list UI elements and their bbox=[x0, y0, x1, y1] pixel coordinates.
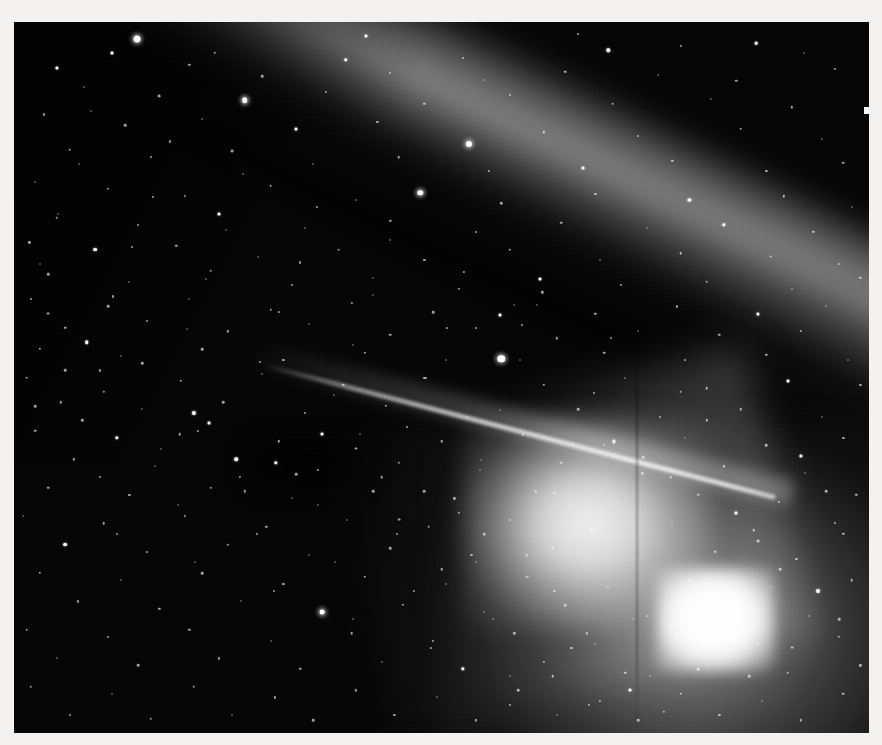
star bbox=[344, 58, 348, 62]
star bbox=[240, 600, 242, 602]
star bbox=[34, 405, 37, 408]
star bbox=[657, 74, 659, 76]
star bbox=[150, 718, 152, 720]
star bbox=[26, 629, 29, 632]
star bbox=[363, 351, 365, 353]
star bbox=[282, 359, 284, 361]
star bbox=[201, 118, 203, 120]
star bbox=[779, 568, 782, 571]
star bbox=[756, 540, 759, 543]
star bbox=[312, 163, 314, 165]
star bbox=[791, 646, 794, 649]
star bbox=[205, 278, 207, 280]
star bbox=[169, 140, 171, 142]
star bbox=[838, 636, 840, 638]
star bbox=[372, 490, 375, 493]
star bbox=[556, 714, 558, 716]
star bbox=[791, 106, 793, 108]
star bbox=[137, 664, 140, 667]
star bbox=[402, 604, 404, 606]
star bbox=[225, 229, 227, 231]
star bbox=[158, 607, 160, 609]
star bbox=[859, 664, 861, 666]
star bbox=[22, 515, 24, 517]
star bbox=[517, 689, 520, 692]
star bbox=[102, 522, 105, 525]
star bbox=[676, 305, 678, 307]
star bbox=[261, 373, 263, 375]
star bbox=[333, 394, 335, 396]
star bbox=[227, 330, 229, 332]
star bbox=[786, 380, 789, 383]
star bbox=[765, 354, 767, 356]
star bbox=[581, 166, 584, 169]
star bbox=[131, 246, 133, 248]
plate-scratch-artifact bbox=[636, 321, 638, 733]
star bbox=[586, 632, 588, 634]
star bbox=[543, 661, 545, 663]
star bbox=[718, 334, 721, 337]
star bbox=[350, 632, 353, 635]
star bbox=[154, 465, 156, 467]
star bbox=[184, 515, 186, 517]
star bbox=[487, 170, 489, 172]
star bbox=[214, 51, 216, 53]
star bbox=[722, 223, 725, 226]
star bbox=[244, 490, 246, 492]
star bbox=[47, 486, 50, 489]
star bbox=[175, 245, 177, 247]
star bbox=[39, 263, 41, 265]
star bbox=[680, 45, 682, 47]
star bbox=[179, 433, 182, 436]
star bbox=[231, 714, 233, 716]
star bbox=[509, 703, 511, 705]
star bbox=[423, 490, 426, 493]
star bbox=[463, 271, 465, 273]
star bbox=[710, 98, 712, 100]
star bbox=[842, 533, 844, 535]
star bbox=[158, 95, 161, 98]
star bbox=[462, 56, 464, 58]
star bbox=[257, 256, 259, 258]
star bbox=[620, 284, 622, 286]
star bbox=[47, 273, 49, 275]
star bbox=[372, 294, 374, 296]
star bbox=[483, 79, 485, 81]
star bbox=[38, 572, 40, 574]
star bbox=[821, 138, 823, 140]
star bbox=[273, 590, 275, 592]
star bbox=[28, 241, 30, 243]
star bbox=[325, 91, 327, 93]
star bbox=[397, 156, 400, 159]
star bbox=[26, 376, 29, 379]
star bbox=[352, 618, 354, 620]
star bbox=[57, 213, 59, 215]
star bbox=[393, 714, 395, 716]
star bbox=[274, 461, 277, 464]
star bbox=[334, 561, 336, 563]
star bbox=[201, 348, 204, 351]
star bbox=[800, 330, 802, 332]
star bbox=[513, 632, 515, 634]
star bbox=[355, 689, 357, 691]
star bbox=[120, 579, 122, 581]
star bbox=[274, 696, 276, 698]
star bbox=[316, 469, 318, 471]
star bbox=[646, 227, 648, 229]
star bbox=[177, 504, 179, 506]
star bbox=[577, 33, 579, 35]
star bbox=[803, 52, 805, 54]
star bbox=[235, 457, 239, 461]
star bbox=[577, 408, 580, 411]
star bbox=[453, 497, 455, 499]
star bbox=[355, 199, 357, 201]
star bbox=[112, 295, 114, 297]
star bbox=[60, 401, 62, 403]
star bbox=[446, 327, 448, 329]
star bbox=[637, 135, 639, 137]
star bbox=[543, 131, 545, 133]
star bbox=[423, 103, 425, 105]
star bbox=[308, 323, 310, 325]
star bbox=[346, 519, 348, 521]
star bbox=[201, 572, 204, 575]
